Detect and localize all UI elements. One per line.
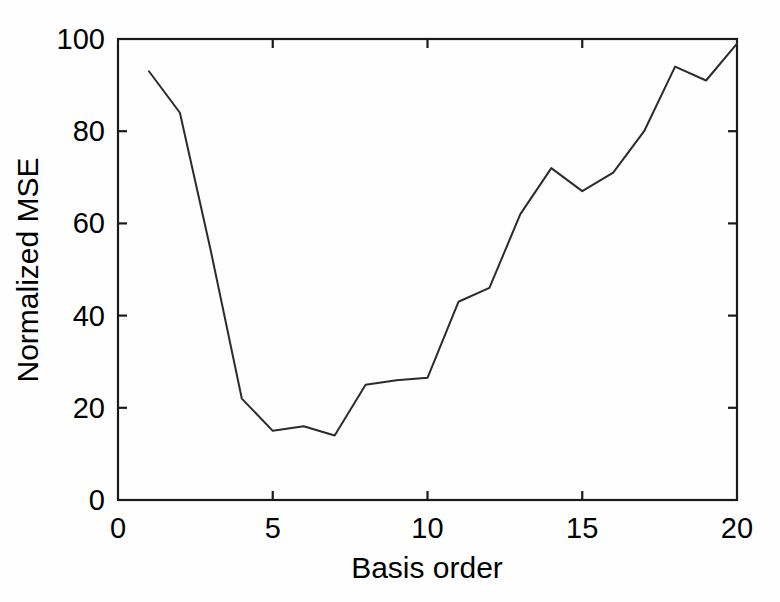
y-tick-label: 20 bbox=[73, 392, 105, 424]
y-tick-label: 0 bbox=[89, 484, 105, 516]
x-tick-label: 15 bbox=[566, 512, 598, 544]
x-axis-title: Basis order bbox=[351, 551, 503, 584]
x-tick-label: 20 bbox=[721, 512, 753, 544]
x-tick-label: 10 bbox=[411, 512, 443, 544]
y-tick-label: 60 bbox=[73, 207, 105, 239]
y-tick-label: 100 bbox=[57, 23, 105, 55]
chart-plot: 05101520 020406080100 Basis order Normal… bbox=[0, 0, 780, 602]
data-series-line bbox=[149, 44, 737, 436]
figure-canvas: 05101520 020406080100 Basis order Normal… bbox=[0, 0, 780, 602]
y-axis-title: Normalized MSE bbox=[11, 157, 44, 382]
plot-frame bbox=[118, 39, 737, 500]
y-axis-ticks bbox=[118, 131, 737, 408]
x-axis-tick-labels: 05101520 bbox=[110, 512, 753, 544]
y-tick-label: 80 bbox=[73, 115, 105, 147]
x-tick-label: 0 bbox=[110, 512, 126, 544]
y-tick-label: 40 bbox=[73, 300, 105, 332]
x-tick-label: 5 bbox=[265, 512, 281, 544]
y-axis-tick-labels: 020406080100 bbox=[57, 23, 105, 516]
